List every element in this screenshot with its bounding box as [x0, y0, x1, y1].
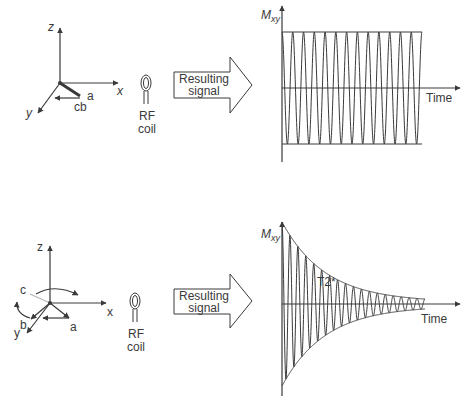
rf-label: RF: [128, 327, 144, 341]
time-label: Time: [421, 312, 448, 326]
t2-star-label: T2*: [317, 275, 336, 289]
coil-label: coil: [138, 122, 156, 136]
mxy-label: Mxy: [261, 227, 281, 243]
arrow-text-line2: signal: [188, 84, 219, 98]
bottom-signal-graph: [282, 222, 460, 396]
mxy-label: Mxy: [261, 8, 281, 24]
vector-b: [31, 303, 50, 319]
origin-dot: [58, 81, 62, 85]
x-label: x: [107, 305, 113, 319]
z-label: z: [37, 240, 43, 254]
bottom-coordinate-system: [17, 246, 106, 333]
x-label: x: [116, 84, 124, 98]
bottom-rf-coil-icon: [130, 293, 140, 322]
vector-a: [60, 83, 80, 96]
rotation-arrow-c: [36, 289, 78, 295]
arrow-text-line2: signal: [188, 301, 219, 315]
coil-label: coil: [127, 340, 145, 354]
vector-c-label: c: [20, 283, 26, 297]
vector-a-label: a: [87, 89, 94, 103]
top-signal-graph: [282, 6, 460, 162]
vector-b-label: b: [20, 318, 27, 332]
rf-label: RF: [139, 109, 155, 123]
rotation-arrow-b: [17, 302, 30, 318]
vector-a-label: a: [70, 320, 77, 334]
vector-cb-label: cb: [74, 100, 87, 114]
mr-signal-diagram: z x y a cb RF coil Resulting signal Mxy …: [0, 0, 472, 404]
z-label: z: [47, 20, 54, 34]
vector-c: [30, 294, 50, 303]
top-rf-coil-icon: [141, 75, 151, 104]
y-label: y: [25, 106, 33, 120]
time-label: Time: [426, 91, 453, 105]
origin-dot: [48, 301, 52, 305]
vector-a: [50, 303, 69, 318]
